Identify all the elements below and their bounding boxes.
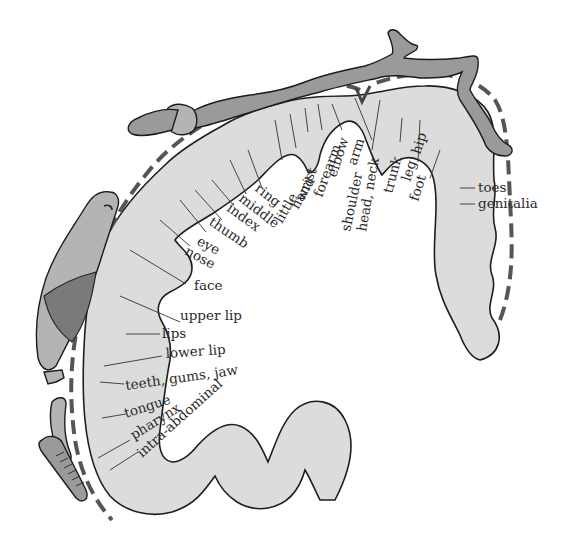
label-upper-lip: upper lip bbox=[180, 307, 242, 323]
label-lips: lips bbox=[162, 325, 186, 341]
label-lower-lip: lower lip bbox=[165, 341, 226, 361]
label-toes: toes bbox=[478, 179, 507, 195]
label-face: face bbox=[194, 277, 223, 293]
label-genitalia: genitalia bbox=[478, 195, 538, 211]
homunculus-diagram: toes genitalia foot leg hip trunk head, … bbox=[0, 0, 567, 546]
homunculus-jaw bbox=[44, 370, 64, 384]
homunculus-pharynx-tube bbox=[39, 436, 87, 500]
homunculus-forearm-extension bbox=[128, 109, 178, 135]
